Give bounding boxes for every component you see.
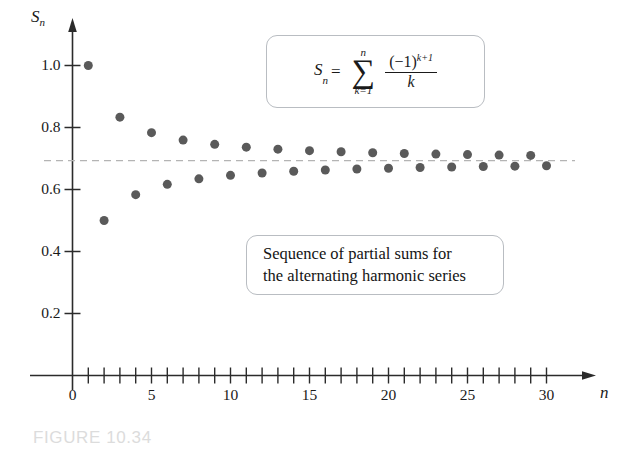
formula-lhs-subscript: n <box>323 74 329 86</box>
sigma-icon: ∑ <box>352 57 376 85</box>
fraction-numerator: (−1)k+1 <box>385 53 437 71</box>
description-line-1: Sequence of partial sums for <box>263 243 452 265</box>
formula-lhs-variable: S <box>314 60 323 79</box>
y-axis-tick-label: 0.8 <box>27 118 61 136</box>
x-axis-tick-label: 15 <box>293 386 327 404</box>
data-point <box>258 169 267 178</box>
data-point <box>115 113 124 122</box>
data-point <box>147 128 156 137</box>
formula-content: Sn = n ∑ k=1 (−1)k+1 k <box>267 36 484 107</box>
data-point <box>100 216 109 225</box>
formula-callout: Sn = n ∑ k=1 (−1)k+1 k <box>266 35 485 108</box>
numerator-base: (−1) <box>389 54 417 71</box>
data-point <box>194 174 203 183</box>
data-point <box>447 162 456 171</box>
data-point <box>226 171 235 180</box>
formula-expression: Sn = n ∑ k=1 (−1)k+1 k <box>314 47 437 96</box>
data-point <box>431 150 440 159</box>
x-axis-tick-label: 10 <box>214 386 248 404</box>
data-point <box>495 151 504 160</box>
data-point <box>416 163 425 172</box>
summation-operator: n ∑ k=1 <box>352 47 376 96</box>
data-point <box>526 151 535 160</box>
data-point <box>84 61 93 70</box>
x-axis-tick-label: 30 <box>530 386 564 404</box>
x-axis-tick-label: 5 <box>135 386 169 404</box>
figure-number-label: FIGURE 10.34 <box>33 428 152 448</box>
fraction-denominator: k <box>404 73 419 90</box>
y-axis-tick-label: 1.0 <box>27 56 61 74</box>
description-line-2: the alternating harmonic series <box>263 265 466 287</box>
data-point <box>463 150 472 159</box>
data-point <box>321 166 330 175</box>
data-point <box>384 164 393 173</box>
data-point <box>337 147 346 156</box>
data-point <box>210 140 219 149</box>
data-point <box>368 148 377 157</box>
description-callout: Sequence of partial sums for the alterna… <box>246 235 504 295</box>
x-axis-label: n <box>600 383 609 403</box>
data-point <box>242 143 251 152</box>
y-axis-tick-label: 0.4 <box>27 242 61 260</box>
formula-lhs: Sn <box>314 61 328 81</box>
y-axis-label-text: S <box>31 7 40 26</box>
y-axis-tick-label: 0.2 <box>27 304 61 322</box>
data-point <box>542 161 551 170</box>
description-content: Sequence of partial sums for the alterna… <box>247 236 503 294</box>
x-axis-tick-label: 20 <box>372 386 406 404</box>
data-point <box>163 180 172 189</box>
data-point <box>273 145 282 154</box>
numerator-exponent: k+1 <box>417 52 433 63</box>
formula-equals-sign: = <box>331 63 341 80</box>
data-point <box>131 190 140 199</box>
data-point <box>352 165 361 174</box>
data-point <box>400 149 409 158</box>
data-point <box>479 162 488 171</box>
y-axis-label-subscript: n <box>40 16 46 28</box>
figure-container: Sn n 0.20.40.60.81.0 051015202530 Sn = n… <box>0 0 626 462</box>
data-point <box>179 136 188 145</box>
y-axis-label: Sn <box>31 7 45 28</box>
x-axis-tick-label: 25 <box>451 386 485 404</box>
formula-fraction: (−1)k+1 k <box>385 53 437 89</box>
x-axis-tick-label: 0 <box>56 386 90 404</box>
data-point <box>289 167 298 176</box>
summation-lower-limit: k=1 <box>354 85 372 96</box>
data-point <box>510 162 519 171</box>
data-point <box>305 146 314 155</box>
y-axis-tick-label: 0.6 <box>27 180 61 198</box>
